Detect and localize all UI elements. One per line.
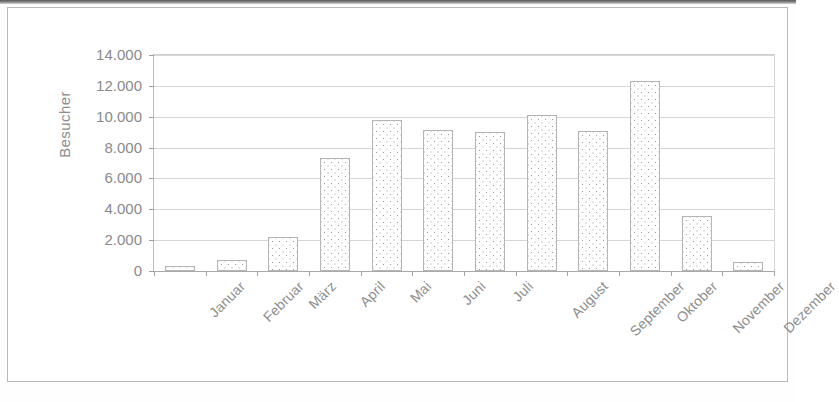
bar xyxy=(320,158,350,271)
plot-area xyxy=(153,54,775,272)
x-axis-tickmark xyxy=(516,271,517,276)
x-axis-tickmark xyxy=(257,271,258,276)
x-axis-tickmark xyxy=(412,271,413,276)
x-axis-tickmark xyxy=(361,271,362,276)
x-axis-tickmark xyxy=(567,271,568,276)
y-axis-tick-label: 4.000 xyxy=(64,201,142,216)
bar xyxy=(630,81,660,271)
x-axis-tickmark xyxy=(154,271,155,276)
x-axis-tickmark xyxy=(774,271,775,276)
y-axis-tick-label: 0 xyxy=(64,263,142,278)
x-axis-tick-label: Juni xyxy=(459,278,489,308)
y-axis-tick-label: 14.000 xyxy=(64,47,142,62)
bar xyxy=(165,266,195,271)
y-axis-tick-label: 10.000 xyxy=(64,109,142,124)
bar xyxy=(733,262,763,271)
x-axis-tick-label: Januar xyxy=(206,278,248,320)
bar xyxy=(423,130,453,271)
x-axis-tick-label: April xyxy=(356,278,388,310)
bar xyxy=(372,120,402,271)
x-axis-tickmark xyxy=(671,271,672,276)
x-axis-tick-labels: JanuarFebruarMärzAprilMaiJuniJuliAugustS… xyxy=(153,278,773,368)
x-axis-tick-label: November xyxy=(729,278,787,336)
x-axis-tickmark xyxy=(722,271,723,276)
x-axis-tickmark xyxy=(206,271,207,276)
y-axis-tick-label: 8.000 xyxy=(64,140,142,155)
x-axis-tick-label: Mai xyxy=(406,278,434,306)
bar-series xyxy=(154,55,774,271)
bar xyxy=(475,132,505,271)
x-axis-tick-label: Februar xyxy=(259,278,306,325)
scan-edge-artifact xyxy=(0,0,796,4)
bar xyxy=(527,115,557,271)
x-axis-tickmark xyxy=(309,271,310,276)
y-axis-tick-label: 2.000 xyxy=(64,232,142,247)
x-axis-tickmark xyxy=(619,271,620,276)
bar xyxy=(578,131,608,271)
x-axis-tickmark xyxy=(464,271,465,276)
y-axis-tick-label: 12.000 xyxy=(64,78,142,93)
bar xyxy=(682,216,712,271)
x-axis-tick-label: Dezember xyxy=(781,278,839,336)
y-axis-tick-label: 6.000 xyxy=(64,170,142,185)
chart-figure-frame: Besucher 14.000 12.000 10.000 8.000 6.00… xyxy=(7,7,788,382)
x-axis-tick-label: August xyxy=(568,278,611,321)
x-axis-tick-label: Juli xyxy=(509,278,536,305)
x-axis-tick-label: März xyxy=(306,278,340,312)
bar xyxy=(217,260,247,271)
bar xyxy=(268,237,298,271)
y-axis-tick-labels: 14.000 12.000 10.000 8.000 6.000 4.000 2… xyxy=(64,44,142,276)
